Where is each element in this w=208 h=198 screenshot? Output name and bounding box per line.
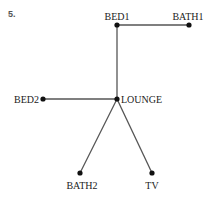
figure-number: 5. (8, 9, 16, 19)
edge-lounge-bath2 (80, 99, 117, 173)
node-bed1 (114, 22, 119, 27)
edge-lounge-tv (117, 99, 152, 173)
node-label-bath2: BATH2 (66, 180, 97, 191)
node-lounge (114, 96, 119, 101)
node-bed2 (40, 96, 45, 101)
node-bath2 (77, 170, 82, 175)
node-bath1 (186, 22, 191, 27)
node-tv (149, 170, 154, 175)
node-label-bed2: BED2 (14, 94, 39, 105)
room-graph-diagram: 5. BED1BATH1LOUNGEBED2BATH2TV (0, 0, 208, 198)
node-label-tv: TV (145, 180, 159, 191)
node-label-bath1: BATH1 (172, 11, 203, 22)
node-label-bed1: BED1 (105, 11, 130, 22)
node-label-lounge: LOUNGE (121, 94, 162, 105)
